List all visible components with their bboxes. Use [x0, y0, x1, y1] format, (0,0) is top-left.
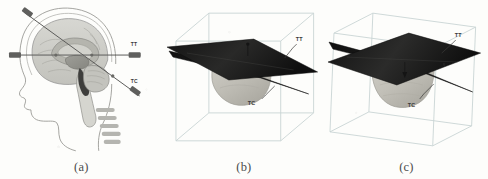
tt-electrode-entry-marker	[9, 52, 21, 58]
figure-container: TT TC (a)	[0, 0, 488, 179]
tt-target-point-right	[90, 53, 93, 56]
panel-a-artwork: TT TC	[0, 0, 163, 152]
label-tt-panel-b: TT	[295, 36, 303, 42]
box-edge-br	[280, 113, 313, 141]
tc-target-point	[111, 74, 114, 77]
target-pin-head	[246, 42, 249, 45]
label-tc-panel-a: TC	[131, 78, 138, 84]
tc-electrode-exit-marker	[129, 86, 141, 97]
box-edge-bl	[330, 112, 369, 132]
label-tc-panel-b: TC	[247, 100, 255, 106]
label-tt-panel-c: TT	[455, 32, 463, 38]
tt-leader-line	[284, 44, 296, 58]
box-edge-bl	[176, 113, 209, 141]
tt-target-point-left	[54, 53, 57, 56]
panel-c-artwork: TT TC	[325, 0, 488, 152]
panel-c: TT TC (c)	[325, 0, 488, 179]
tc-electrode-entry-marker	[21, 7, 33, 18]
box-edge-tl	[334, 13, 373, 33]
label-tc-panel-c: TC	[408, 102, 416, 108]
tt-electrode-exit-marker	[129, 52, 141, 58]
caption-panel-a: (a)	[0, 160, 163, 175]
panel-b: TT TC (b)	[163, 0, 326, 179]
caption-panel-c: (c)	[325, 160, 488, 175]
vertebrae-marks	[96, 108, 121, 144]
tt-plane	[328, 33, 481, 85]
panel-a: TT TC (a)	[0, 0, 163, 179]
label-tt-panel-a: TT	[131, 41, 138, 47]
box-edge-tl	[176, 13, 209, 41]
panel-b-artwork: TT TC	[163, 0, 326, 152]
cerebellum	[83, 66, 109, 93]
caption-panel-b: (b)	[163, 160, 326, 175]
box-edge-br	[433, 126, 472, 146]
